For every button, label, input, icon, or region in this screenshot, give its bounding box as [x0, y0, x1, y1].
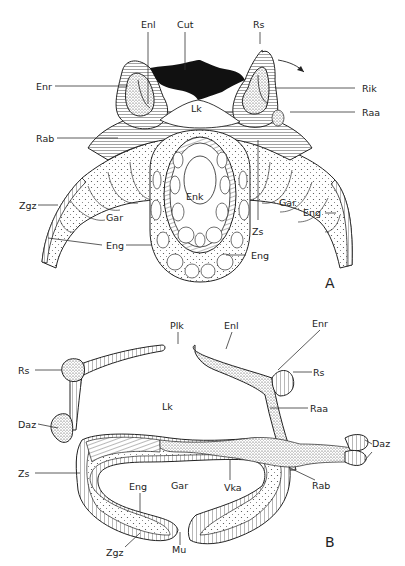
label-a-enl: Enl [141, 19, 156, 30]
label-b-rab: Rab [312, 480, 330, 491]
label-b-enr: Enr [312, 318, 328, 329]
cuticle [150, 60, 245, 100]
label-b-rs-left: Rs [18, 365, 30, 376]
label-b-gar: Gar [171, 480, 188, 491]
label-a-eng-left: Eng [106, 240, 124, 251]
lobe-right [233, 50, 284, 127]
b-daz-right-2 [345, 450, 366, 465]
label-a-rik: Rik [362, 83, 377, 94]
label-a-enr: Enr [36, 81, 52, 92]
label-a-rab: Rab [36, 133, 54, 144]
label-b-rs-right: Rs [313, 367, 325, 378]
label-a-lk: Lk [191, 103, 202, 114]
label-a-zs: Zs [252, 226, 264, 237]
label-b-daz-right: Daz [372, 438, 390, 449]
label-b-zgz: Zgz [106, 547, 124, 558]
enk-capsule [150, 130, 250, 282]
label-b-daz-left: Daz [18, 419, 36, 430]
label-a-raa: Raa [362, 107, 380, 118]
label-b-zs: Zs [18, 468, 30, 479]
label-b-enl: Enl [224, 320, 239, 331]
label-b-mu: Mu [172, 544, 186, 555]
label-a-eng-bottom: Eng [251, 250, 269, 261]
label-a-gar-left: Gar [106, 212, 123, 223]
label-b-plk: Plk [170, 320, 184, 331]
b-daz-left [51, 414, 73, 443]
panel-b: Plk Enl Enr Rs Rs Lk Raa Daz Daz Zs Eng … [18, 318, 390, 558]
label-b-lk: Lk [162, 401, 173, 412]
label-a-gar-right: Gar [279, 197, 296, 208]
label-b-eng: Eng [129, 481, 147, 492]
panel-label-b: B [325, 534, 335, 550]
label-a-cut: Cut [177, 19, 194, 30]
b-rs-right [272, 371, 294, 397]
figure-canvas: Enl Cut Rs Enr Rik Lk Raa Rab Enk Zgz Ga… [0, 0, 405, 566]
panel-a: Enl Cut Rs Enr Rik Lk Raa Rab Enk Zgz Ga… [19, 19, 380, 291]
b-left-arm [70, 345, 165, 430]
label-b-raa: Raa [310, 403, 328, 414]
b-central-cord [160, 437, 352, 467]
label-a-eng-right: Eng [303, 207, 321, 218]
label-a-rs: Rs [253, 19, 265, 30]
b-rs-left [62, 359, 85, 382]
label-a-zgz: Zgz [19, 200, 37, 211]
panel-label-a: A [325, 275, 335, 291]
label-b-vka: Vka [224, 482, 242, 493]
label-a-enk: Enk [186, 191, 204, 202]
